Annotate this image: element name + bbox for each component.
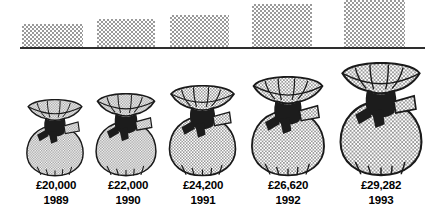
- money-bag-pictograms: [0, 55, 445, 177]
- salary-growth-figure: £20,000 1989 £22,000 1990 £24,200 1991 £…: [0, 0, 445, 219]
- money-bag-1991: [165, 85, 240, 177]
- year-1992: 1992: [252, 193, 324, 208]
- year-1993: 1993: [345, 193, 417, 208]
- label-group-1993: £29,282 1993: [345, 178, 417, 208]
- year-value-labels: £20,000 1989 £22,000 1990 £24,200 1991 £…: [0, 178, 445, 219]
- money-bag-1989: [23, 99, 87, 177]
- bar-1993: [344, 0, 405, 48]
- bar-1989: [22, 24, 83, 48]
- salary-amount-1989: £20,000: [20, 178, 92, 193]
- salary-amount-1991: £24,200: [167, 178, 239, 193]
- bar-1990: [97, 19, 155, 48]
- money-bag-1992: [247, 76, 329, 177]
- label-group-1989: £20,000 1989: [20, 178, 92, 208]
- bar-chart: [0, 0, 445, 52]
- label-group-1992: £26,620 1992: [252, 178, 324, 208]
- year-1991: 1991: [167, 193, 239, 208]
- label-group-1991: £24,200 1991: [167, 178, 239, 208]
- money-bag-1993: [335, 62, 427, 177]
- bar-1991: [170, 15, 229, 48]
- salary-amount-1992: £26,620: [252, 178, 324, 193]
- salary-amount-1990: £22,000: [92, 178, 164, 193]
- bar-1992: [252, 4, 312, 48]
- chart-baseline-axis: [20, 47, 425, 49]
- year-1990: 1990: [92, 193, 164, 208]
- money-bag-1990: [92, 93, 160, 177]
- salary-amount-1993: £29,282: [345, 178, 417, 193]
- year-1989: 1989: [20, 193, 92, 208]
- label-group-1990: £22,000 1990: [92, 178, 164, 208]
